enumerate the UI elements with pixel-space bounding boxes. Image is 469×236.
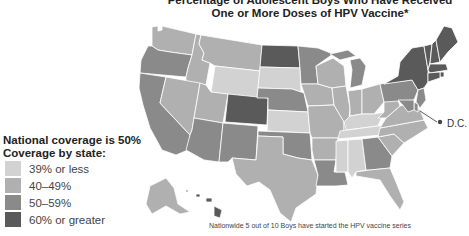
state-hi [186, 190, 222, 218]
state-ks [267, 110, 310, 133]
state-in [348, 89, 362, 116]
legend-swatch [5, 178, 21, 193]
map-title-line2: One or More Doses of HPV Vaccine* [150, 7, 469, 20]
legend-label: 39% or less [29, 163, 89, 175]
state-ms [336, 140, 348, 172]
legend-swatch [5, 161, 21, 176]
state-nd [260, 45, 300, 68]
state-ma [428, 64, 448, 73]
legend-swatch [5, 195, 21, 210]
state-nm [219, 123, 258, 162]
legend-item: 50–59% [5, 194, 141, 211]
legend-item: 39% or less [5, 160, 141, 177]
legend-label: 50–59% [29, 197, 71, 209]
state-ak [146, 178, 190, 214]
legend-item: 60% or greater [5, 211, 141, 228]
state-ct [428, 72, 440, 82]
dc-label: D.C. [447, 118, 467, 129]
national-coverage-heading: National coverage is 50% [3, 134, 141, 147]
dc-marker [438, 120, 442, 124]
legend: National coverage is 50% Coverage by sta… [3, 134, 141, 228]
legend-label: 40–49% [29, 180, 71, 192]
state-me [436, 26, 458, 62]
legend-swatch [5, 212, 21, 227]
state-fl [356, 168, 404, 210]
state-ri [440, 72, 444, 77]
state-de [414, 102, 418, 112]
coverage-by-state-heading: Coverage by state: [3, 147, 141, 160]
state-ar [312, 138, 338, 160]
map-title-line1: Percentage of Adolescent Boys Who Have R… [150, 0, 469, 7]
legend-item: 40–49% [5, 177, 141, 194]
state-co [225, 94, 268, 125]
footnote: Nationwide 5 out of 10 Boys have started… [209, 222, 411, 229]
legend-label: 60% or greater [29, 214, 105, 226]
